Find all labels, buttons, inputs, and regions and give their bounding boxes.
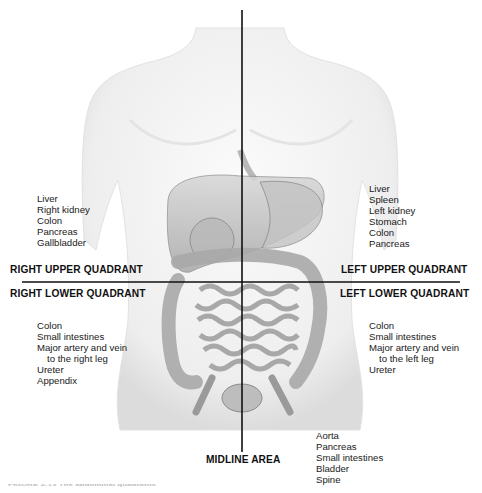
organ-item: Stomach [369, 216, 415, 227]
right-lower-organ-list: Colon Small intestines Major artery and … [37, 320, 127, 386]
organ-item: Spine [316, 474, 383, 485]
organ-item: Pancreas [37, 226, 90, 237]
organ-item: Spleen [369, 194, 415, 205]
right-upper-quadrant-label: RIGHT UPPER QUADRANT [10, 264, 143, 275]
organ-item: Liver [369, 183, 415, 194]
organ-item: Appendix [37, 375, 127, 386]
organ-item: Pancreas [369, 238, 415, 249]
organ-item: Ureter [37, 364, 127, 375]
organ-item: Small intestines [37, 331, 127, 342]
organ-item: Right kidney [37, 204, 90, 215]
left-lower-organ-list: Colon Small intestines Major artery and … [369, 320, 459, 375]
organ-item: Small intestines [369, 331, 459, 342]
left-upper-organ-list: Liver Spleen Left kidney Stomach Colon P… [369, 183, 415, 249]
organ-item: Pancreas [316, 441, 383, 452]
organ-item: Left kidney [369, 205, 415, 216]
midline-area-label: MIDLINE AREA [206, 454, 280, 465]
organ-item: to the left leg [369, 353, 459, 364]
figure-caption: FIGURE 2-13 The abdominal quadrants [8, 484, 156, 487]
left-upper-quadrant-label: LEFT UPPER QUADRANT [341, 264, 467, 275]
right-lower-quadrant-label: RIGHT LOWER QUADRANT [10, 288, 146, 299]
left-lower-quadrant-label: LEFT LOWER QUADRANT [340, 288, 469, 299]
organ-item: Liver [37, 193, 90, 204]
organ-item: Major artery and vein [37, 342, 127, 353]
organ-item: Major artery and vein [369, 342, 459, 353]
organ-item: Bladder [316, 463, 383, 474]
organ-item: Colon [369, 227, 415, 238]
organ-item: Colon [369, 320, 459, 331]
organ-item: to the right leg [37, 353, 127, 364]
organ-item: Aorta [316, 430, 383, 441]
organ-item: Colon [37, 215, 90, 226]
organ-item: Ureter [369, 364, 459, 375]
organ-item: Small intestines [316, 452, 383, 463]
organ-item: Colon [37, 320, 127, 331]
midline-organ-list: Aorta Pancreas Small intestines Bladder … [316, 430, 383, 485]
organ-item: Gallbladder [37, 237, 90, 248]
right-upper-organ-list: Liver Right kidney Colon Pancreas Gallbl… [37, 193, 90, 248]
